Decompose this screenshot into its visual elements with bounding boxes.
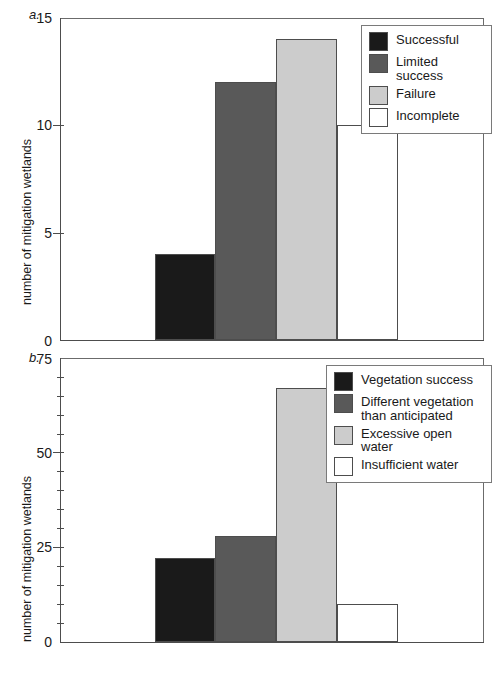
legend-label-vegetation-success: Vegetation success [361,372,473,387]
bar-different-vegetation [215,536,276,642]
legend-swatch-failure [369,86,388,105]
bar-successful [155,254,215,340]
legend-swatch-incomplete [369,108,388,127]
legend-item-limited-success: Limited success [369,54,483,83]
panel-a-y-axis-title: number of mitigation wetlands [20,139,34,305]
legend-label-limited-success: Limited success [396,54,483,83]
legend-swatch-different-vegetation [334,394,353,413]
bar-incomplete [337,125,398,340]
legend-item-excessive-open-water: Excessive open water [334,426,483,455]
panel-a-ytick-0: 0 [24,334,52,348]
legend-swatch-insufficient-water [334,457,353,476]
bar-vegetation-success [155,558,215,642]
legend-label-excessive-open-water: Excessive open water [361,426,483,455]
panel-b-x-axis [60,642,484,643]
legend-label-different-vegetation: Different vegetation than anticipated [361,394,474,423]
legend-label-failure: Failure [396,86,436,101]
legend-item-different-vegetation: Different vegetation than anticipated [334,394,483,423]
legend-swatch-excessive-open-water [334,426,353,445]
legend-swatch-successful [369,32,388,51]
panel-a-legend: Successful Limited success Failure Incom… [361,25,492,134]
panel-a-ytick-5: 5 [24,226,52,240]
panel-b-ytick-0: 0 [18,635,52,649]
legend-item-incomplete: Incomplete [369,108,483,127]
panel-b-legend: Vegetation success Different vegetation … [326,365,492,483]
panel-b-ytick-50: 50 [18,446,52,460]
panel-b: b. number of mitigation wetlands 75 50 2… [0,350,499,687]
legend-item-failure: Failure [369,86,483,105]
legend-label-incomplete: Incomplete [396,108,460,123]
legend-swatch-limited-success [369,54,388,73]
legend-item-insufficient-water: Insufficient water [334,457,483,476]
panel-a-x-axis [60,340,484,341]
figure-root: a. number of mitigation wetlands 15 10 5… [0,0,499,687]
legend-item-vegetation-success: Vegetation success [334,372,483,391]
panel-b-y-axis-title: number of mitigation wetlands [20,476,34,642]
legend-label-successful: Successful [396,32,459,47]
legend-label-insufficient-water: Insufficient water [361,457,458,472]
panel-b-ytick-75: 75 [18,352,52,366]
panel-a-ytick-10: 10 [24,118,52,132]
bar-insufficient-water [337,604,398,642]
legend-swatch-vegetation-success [334,372,353,391]
panel-b-ytick-25: 25 [18,540,52,554]
panel-a-ytick-15: 15 [24,11,52,25]
bar-limited-success [215,82,276,340]
bar-failure [276,39,337,340]
legend-item-successful: Successful [369,32,483,51]
panel-a: a. number of mitigation wetlands 15 10 5… [0,0,499,350]
